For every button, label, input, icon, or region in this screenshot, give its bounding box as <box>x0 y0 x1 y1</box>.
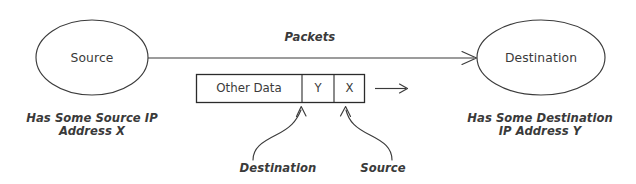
source-caption-line-1: Has Some Source IP <box>26 112 158 125</box>
destination-caption: Has Some Destination IP Address Y <box>467 112 612 139</box>
packet-cell-payload: Other Data <box>216 82 281 96</box>
destination-leader-arrowhead <box>297 107 307 117</box>
source-caption-line-2: Address X <box>26 125 158 138</box>
source-pointer-label: Source <box>360 162 406 175</box>
packets-flow-label: Packets <box>285 31 336 44</box>
destination-pointer-label: Destination <box>240 162 317 175</box>
packet-cell-destination-address: Y <box>314 82 321 95</box>
destination-node-label: Destination <box>505 51 577 65</box>
source-node-label: Source <box>70 51 113 65</box>
destination-leader-line <box>253 110 301 160</box>
destination-caption-line-1: Has Some Destination <box>467 112 612 125</box>
source-caption: Has Some Source IP Address X <box>26 112 158 139</box>
source-leader-line <box>346 110 392 160</box>
destination-caption-line-2: IP Address Y <box>467 125 612 138</box>
diagram-root: Source Destination Packets Other Data Y … <box>0 0 636 184</box>
source-leader-arrowhead <box>341 107 351 117</box>
packet-cell-source-address: X <box>346 82 354 95</box>
